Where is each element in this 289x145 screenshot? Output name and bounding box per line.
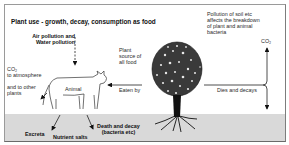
dies-decays-arrow-icon	[204, 48, 267, 109]
label-eaten-by: Eaten by	[119, 87, 140, 93]
label-death-decay: Death and decay (bacteria etc)	[97, 123, 140, 135]
diagram-title: Plant use - growth, decay, consumption a…	[11, 18, 156, 25]
excreta-arrow-icon	[52, 115, 60, 130]
label-excreta: Excreta	[25, 131, 44, 137]
label-nutrient-salts: Nutrient salts	[53, 134, 87, 140]
tree-icon	[152, 42, 202, 132]
label-soil-pollution: Pollution of soil etc affects the breakd…	[207, 11, 260, 35]
diagram-frame: Plant use - growth, decay, consumption a…	[4, 4, 286, 142]
label-animal: Animal	[65, 86, 81, 92]
label-other-plants: and to other plants	[7, 84, 36, 96]
label-air-water-pollution: Air pollution and Water pollution	[15, 33, 75, 45]
label-co2-right: CO₂	[261, 38, 271, 44]
label-co2-atmosphere: CO₂ to atmosphere	[7, 66, 41, 78]
death-decay-arrow-icon	[87, 115, 93, 129]
label-dies-decays: Dies and decays	[217, 87, 257, 93]
label-plant-source: Plant source of all food	[119, 47, 141, 65]
